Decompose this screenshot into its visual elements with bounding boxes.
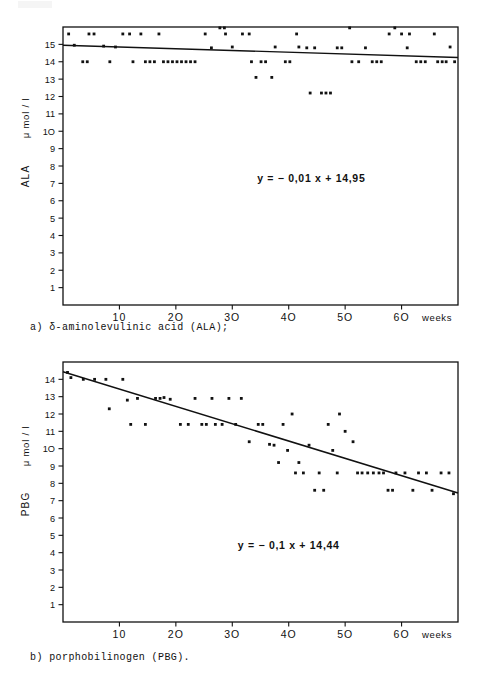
data-point [404,472,407,475]
data-point [308,444,311,447]
data-point [158,33,161,36]
data-point [277,461,280,464]
data-point [378,472,381,475]
y-tick-label: 8 [50,479,55,489]
data-point [204,33,207,36]
data-point [176,60,179,63]
data-point [250,60,253,63]
data-point [452,492,455,495]
data-point [344,430,347,433]
data-point [433,33,436,36]
data-point [318,472,321,475]
data-point [114,46,117,49]
page-header-artifact [18,1,52,8]
y-tick-label: 9 [50,462,55,472]
data-point [121,33,124,36]
x-axis-label: weeks [421,312,452,323]
y-axis-label-analyte: ALA [20,165,31,188]
data-point [102,45,105,48]
data-point [297,46,300,49]
data-point [431,489,434,492]
y-tick-label: 7 [50,179,55,189]
data-point [88,33,91,36]
data-point [371,60,374,63]
y-tick-label: 1 [50,600,55,610]
data-point [261,423,264,426]
data-point [189,60,192,63]
data-point [248,440,251,443]
data-point [294,472,297,475]
data-point [268,443,271,446]
data-point [309,92,312,95]
plot-frame [63,27,458,305]
data-point [128,33,131,36]
data-point [187,423,190,426]
data-point [441,60,444,63]
data-point [388,33,391,36]
data-point [357,60,360,63]
data-point [364,46,367,49]
data-point [132,60,135,63]
y-tick-label: 13 [45,75,55,85]
data-point [86,60,89,63]
figure-page: 1234567891O1112131415102O3O4O5O6OweeksAL… [0,0,492,679]
y-tick-label: 5 [50,214,55,224]
data-point [270,76,273,79]
data-point [108,407,111,410]
data-point [295,33,298,36]
y-tick-label: 4 [50,548,55,558]
data-point [286,449,289,452]
y-tick-label: 8 [50,162,55,172]
data-point [167,60,170,63]
x-tick-label: 2O [168,628,184,640]
data-point [144,423,147,426]
data-point [93,378,96,381]
data-point [382,472,385,475]
data-point [336,46,339,49]
data-point [171,60,174,63]
x-tick-label: 4O [281,628,297,640]
data-point [400,33,403,36]
y-tick-label: 2 [50,266,55,276]
data-point [340,46,343,49]
y-tick-label: 5 [50,531,55,541]
data-point [411,489,414,492]
regression-line [63,45,458,57]
data-point [180,60,183,63]
data-point [162,60,165,63]
data-point [73,44,76,47]
data-point [415,60,418,63]
data-point [366,472,369,475]
data-point [282,423,285,426]
data-point [417,472,420,475]
data-point [241,33,244,36]
y-axis-label-unit: μ mol / l [20,426,31,467]
y-tick-label: 3 [50,566,55,576]
x-tick-label: 4O [281,311,297,323]
y-tick-label: 11 [45,427,55,437]
data-point [264,60,267,63]
data-point [425,472,428,475]
ala-plot-svg: 1234567891O1112131415102O3O4O5O6OweeksAL… [0,18,492,338]
data-point [228,397,231,400]
data-point [387,489,390,492]
x-tick-label: 10 [113,628,127,640]
data-point [453,60,456,63]
data-point [313,489,316,492]
data-point [194,60,197,63]
y-tick-label: 9 [50,144,55,154]
data-point [223,26,226,29]
data-point [338,413,341,416]
data-point [240,397,243,400]
data-point [348,26,351,29]
data-point [320,92,323,95]
data-point [445,60,448,63]
data-point [327,423,330,426]
data-point [205,423,208,426]
regression-equation: y = − 0,1 x + 14,44 [238,539,340,551]
data-point [351,60,354,63]
y-tick-label: 15 [45,40,55,50]
data-point [234,423,237,426]
data-point [284,60,287,63]
data-point [302,472,305,475]
